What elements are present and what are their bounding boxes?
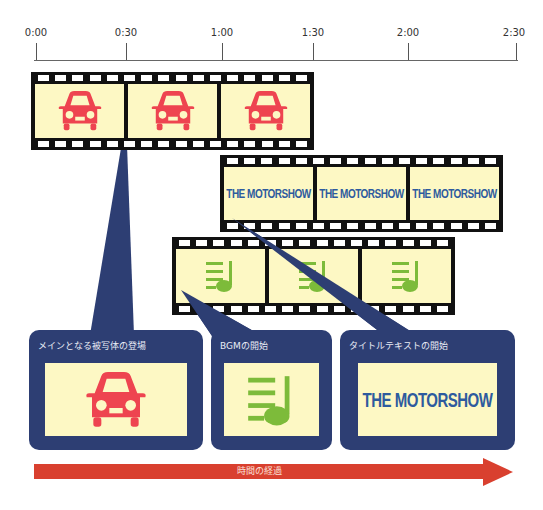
sprocket-holes-top (220, 157, 503, 165)
film-frame (221, 84, 310, 138)
film-frames (176, 249, 451, 303)
sprocket-holes-bottom (31, 140, 314, 148)
film-frame (128, 84, 217, 138)
music-list-icon (390, 259, 424, 293)
sprocket-holes-top (172, 239, 455, 247)
film-frame: THE MOTORSHOW (410, 167, 499, 220)
time-arrow: 時間の経過 (34, 464, 484, 479)
callout-preview: THE MOTORSHOW (358, 363, 497, 436)
film-frame: THE MOTORSHOW (224, 167, 313, 220)
film-frame (176, 249, 265, 303)
film-frame (35, 84, 124, 138)
callout-title-text: タイトルテキストの開始 THE MOTORSHOW (340, 330, 515, 450)
callout-bgm: BGMの開始 (211, 330, 332, 450)
music-list-icon (204, 259, 238, 293)
filmstrip-main-subject (31, 72, 314, 150)
time-arrow-label: 時間の経過 (34, 464, 484, 479)
film-frames: THE MOTORSHOW THE MOTORSHOW THE MOTORSHO… (224, 167, 499, 220)
film-frame (269, 249, 358, 303)
film-frame (362, 249, 451, 303)
callout-title: BGMの開始 (220, 339, 268, 352)
title-text: THE MOTORSHOW (319, 186, 403, 201)
callout-preview (45, 363, 187, 436)
film-frames (35, 84, 310, 138)
arrow-head-icon (483, 458, 513, 486)
music-list-icon (297, 259, 331, 293)
callout-title: タイトルテキストの開始 (349, 339, 448, 352)
sprocket-holes-bottom (220, 222, 503, 230)
filmstrip-bgm (172, 237, 455, 315)
callout-title: メインとなる被写体の登場 (38, 339, 146, 352)
callout-preview (224, 363, 319, 436)
title-text: THE MOTORSHOW (363, 388, 493, 411)
music-list-icon (245, 373, 299, 427)
sprocket-holes-top (31, 74, 314, 82)
car-icon (237, 89, 295, 133)
pointer-main-subject (90, 118, 134, 335)
car-icon (144, 89, 202, 133)
callout-main-subject: メインとなる被写体の登場 (29, 330, 203, 450)
title-text: THE MOTORSHOW (226, 186, 310, 201)
film-frame: THE MOTORSHOW (317, 167, 406, 220)
car-icon (51, 89, 109, 133)
sprocket-holes-bottom (172, 305, 455, 313)
car-icon (76, 369, 156, 431)
filmstrip-title-text: THE MOTORSHOW THE MOTORSHOW THE MOTORSHO… (220, 155, 503, 232)
title-text: THE MOTORSHOW (412, 186, 496, 201)
